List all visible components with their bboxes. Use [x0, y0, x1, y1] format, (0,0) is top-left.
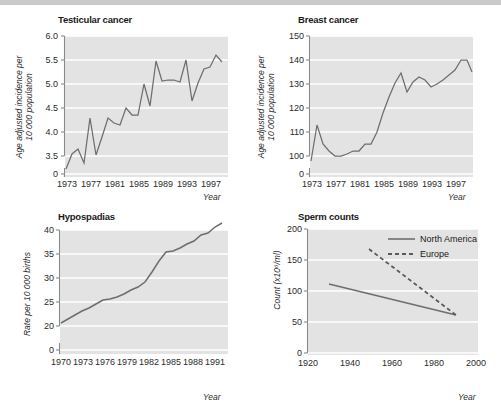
y-tick-label: 120	[278, 103, 304, 113]
y-tick-label: 25	[30, 297, 54, 307]
top-divider-band	[0, 0, 501, 5]
y-tick-label: 130	[278, 79, 304, 89]
x-tick-label: 1920	[294, 358, 322, 368]
x-tick-label: 1997	[197, 179, 225, 189]
y-tick-label: 100	[276, 286, 302, 296]
x-tick-label: 1997	[442, 179, 470, 189]
panel-breast-cancer: Breast cancer Age adjusted incidence per…	[250, 10, 501, 207]
y-tick-label: 0	[34, 169, 58, 179]
plot-background	[308, 229, 478, 355]
panel-hypospadias: Hypospadias Rate per 10 000 births Year	[0, 207, 250, 414]
y-tick-label: 6.0	[34, 31, 58, 41]
x-tick-label: 2000	[462, 358, 490, 368]
y-tick-label: 0	[278, 169, 304, 179]
y-tick-label: 5.0	[34, 79, 58, 89]
y-tick-label: 50	[276, 317, 302, 327]
y-tick-label: 30	[30, 273, 54, 283]
figure-panel-grid: Testicular cancer Age adjusted incidence…	[0, 0, 501, 414]
legend-label-north-america: North America	[420, 234, 477, 244]
y-tick-label: 4.5	[34, 103, 58, 113]
panel-testicular-cancer: Testicular cancer Age adjusted incidence…	[0, 10, 250, 207]
y-tick-label: 0	[276, 348, 302, 358]
y-tick-label: 4.0	[34, 127, 58, 137]
x-tick-label: 1991	[201, 357, 229, 367]
y-tick-label: 150	[278, 31, 304, 41]
y-tick-label: 35	[30, 249, 54, 259]
y-tick-label: 3.5	[34, 151, 58, 161]
y-tick-label: 20	[30, 321, 54, 331]
y-tick-label: 0	[30, 345, 54, 355]
x-tick-label: 1980	[420, 358, 448, 368]
plot-background	[60, 230, 228, 354]
y-tick-label: 140	[278, 55, 304, 65]
y-tick-label: 100	[278, 151, 304, 161]
x-tick-label: 1940	[336, 358, 364, 368]
y-tick-label: 110	[278, 127, 304, 137]
y-tick-label: 200	[276, 224, 302, 234]
y-tick-label: 5.5	[34, 55, 58, 65]
y-tick-label: 150	[276, 255, 302, 265]
x-tick-label: 1960	[378, 358, 406, 368]
legend-label-europe: Europe	[420, 249, 449, 259]
plot-area-hypospadias	[0, 207, 250, 414]
y-tick-label: 40	[30, 225, 54, 235]
panel-sperm-counts: Sperm counts Count (x10⁶/ml) Year	[250, 207, 501, 414]
